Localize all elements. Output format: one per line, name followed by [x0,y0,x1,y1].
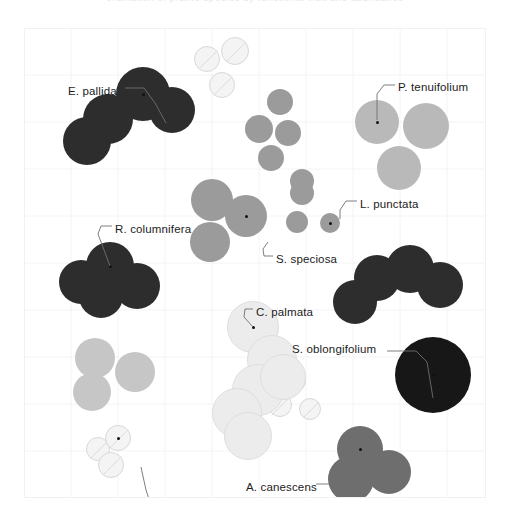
species-label-r-columnifera: R. columnifera [115,224,191,236]
species-label-s-speciosa: S. speciosa [276,254,337,266]
leader-r-hirta [141,467,163,498]
leader-l-punctata [340,201,357,219]
species-label-a-canescens: A. canescens [246,482,317,494]
species-label-c-palmata: C. palmata [256,307,313,319]
species-label-s-oblongifolium: S. oblongifolium [292,344,376,356]
leader-e-pallida [125,88,166,123]
leader-s-oblongifolium [387,351,433,398]
leader-line-layer [24,28,486,498]
species-label-l-punctata: L. punctata [360,199,419,211]
leader-r-columnifera [98,226,112,266]
species-label-p-tenuifolium: P. tenuifolium [398,82,468,94]
leader-c-palmata [244,309,253,327]
plot-area: E. pallidaP. tenuifoliumL. punctataR. co… [24,28,486,498]
leader-a-canescens [316,474,360,484]
figure-canvas: ordination of prairie species by functio… [0,0,510,524]
clipped-title-text: ordination of prairie species by functio… [0,0,510,4]
species-label-e-pallida: E. pallida [68,86,117,98]
leader-p-tenuifolium [377,85,395,120]
leader-s-speciosa [263,242,273,256]
